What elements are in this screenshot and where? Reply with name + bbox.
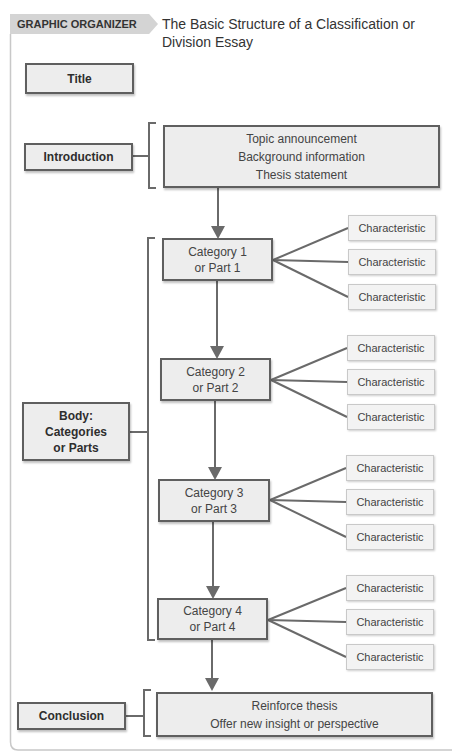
characteristic-box: Characteristic: [346, 609, 434, 635]
conclusion-content-box: Reinforce thesis Offer new insight or pe…: [156, 692, 433, 737]
category-line: Category 1: [188, 244, 247, 260]
characteristic-box: Characteristic: [346, 489, 434, 515]
conclusion-item: Reinforce thesis: [251, 697, 337, 715]
characteristic-box: Characteristic: [347, 369, 435, 395]
characteristic-box: Characteristic: [346, 575, 434, 601]
category-line: or Part 1: [194, 260, 240, 276]
category-box-4: Category 4 or Part 4: [157, 598, 268, 640]
conclusion-item: Offer new insight or perspective: [210, 715, 379, 733]
characteristic-box: Characteristic: [347, 404, 435, 430]
body-label-line: Body:: [59, 408, 93, 424]
introduction-box: Introduction: [24, 143, 133, 171]
category-line: Category 4: [183, 603, 242, 619]
category-box-2: Category 2 or Part 2: [160, 358, 271, 401]
category-line: or Part 4: [189, 619, 235, 635]
diagram-title: The Basic Structure of a Classification …: [162, 15, 452, 51]
category-box-1: Category 1 or Part 1: [162, 238, 273, 281]
title-label: Title: [67, 72, 91, 86]
characteristic-box: Characteristic: [347, 335, 435, 361]
characteristic-box: Characteristic: [346, 455, 434, 481]
characteristic-box: Characteristic: [348, 284, 436, 310]
introduction-label: Introduction: [44, 150, 114, 164]
category-line: Category 2: [186, 364, 245, 380]
arrow-down-icon: [205, 678, 219, 691]
characteristic-box: Characteristic: [348, 249, 436, 275]
body-label-line: or Parts: [53, 440, 98, 456]
intro-item: Thesis statement: [256, 166, 347, 184]
conclusion-box: Conclusion: [17, 702, 126, 730]
characteristic-box: Characteristic: [348, 215, 436, 241]
body-label-line: Categories: [45, 424, 107, 440]
category-line: Category 3: [185, 485, 244, 501]
intro-item: Topic announcement: [246, 130, 357, 148]
conclusion-label: Conclusion: [39, 709, 104, 723]
intro-item: Background information: [238, 148, 365, 166]
category-line: or Part 3: [191, 501, 237, 517]
introduction-content-box: Topic announcement Background informatio…: [163, 125, 440, 188]
title-box: Title: [25, 63, 134, 94]
characteristic-box: Characteristic: [346, 524, 434, 550]
body-box: Body: Categories or Parts: [22, 402, 130, 461]
characteristic-box: Characteristic: [346, 644, 434, 670]
graphic-organizer-label: GRAPHIC ORGANIZER 16.1: [10, 14, 158, 34]
category-line: or Part 2: [192, 380, 238, 396]
category-box-3: Category 3 or Part 3: [158, 479, 270, 522]
